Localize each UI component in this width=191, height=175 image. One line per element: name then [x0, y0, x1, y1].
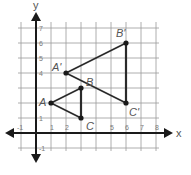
- x-tick-label: 5: [110, 124, 114, 131]
- vertex-point: [123, 40, 128, 45]
- y-axis-label: y: [33, 0, 39, 11]
- x-axis-right-arrow-icon: [164, 128, 173, 138]
- vertex-label: B: [86, 76, 93, 88]
- vertex-label: C: [86, 120, 94, 132]
- x-axis-left-arrow-icon: [5, 128, 14, 138]
- y-tick-label: 5: [39, 55, 43, 62]
- y-tick-label: 7: [39, 25, 43, 32]
- vertex-point: [123, 100, 128, 105]
- vertex-label: B': [116, 27, 126, 39]
- y-tick-label: -1: [39, 145, 45, 152]
- x-axis-label: x: [176, 127, 182, 139]
- axes: x y: [5, 0, 182, 163]
- vertex-label: A': [51, 61, 62, 73]
- x-tick-label: 2: [65, 124, 69, 131]
- x-tick-label: 7: [140, 124, 144, 131]
- x-tick-label: 1: [50, 124, 54, 131]
- y-tick-label: 6: [39, 40, 43, 47]
- vertex-label: C': [129, 106, 140, 118]
- y-axis-down-arrow-icon: [31, 154, 41, 163]
- vertex-label: A: [38, 96, 46, 108]
- x-tick-label: -1: [17, 124, 23, 131]
- x-tick-label: 6: [125, 124, 129, 131]
- y-axis-up-arrow-icon: [31, 12, 41, 21]
- coordinate-plane: x y -1125678-114567 ABCA'B'C': [0, 0, 191, 175]
- vertex-point: [78, 115, 83, 120]
- y-tick-label: 4: [39, 70, 43, 77]
- x-tick-label: 8: [155, 124, 159, 131]
- vertex-point: [48, 100, 53, 105]
- vertex-point: [63, 70, 68, 75]
- y-tick-label: 1: [39, 115, 43, 122]
- vertex-point: [78, 85, 83, 90]
